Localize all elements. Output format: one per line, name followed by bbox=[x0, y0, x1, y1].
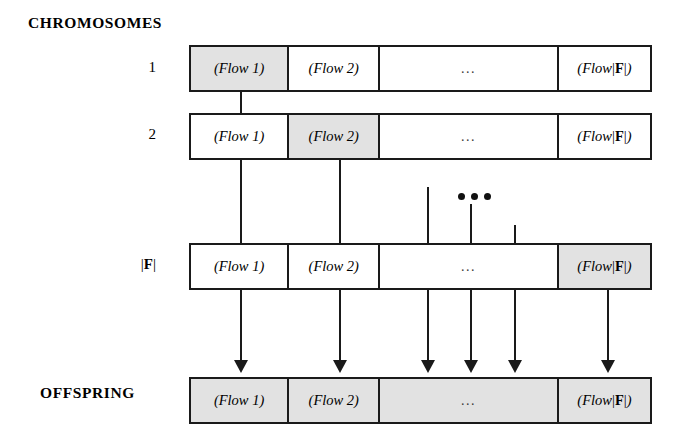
flowF-close: ) bbox=[627, 60, 632, 77]
chromosome-row-1: (Flow 1) (Flow 2) ... (Flow |F|) bbox=[189, 45, 652, 92]
offspring-heading: OFFSPRING bbox=[40, 384, 135, 402]
flowF-symbol: F bbox=[615, 128, 624, 145]
offspring-cell-ellipsis[interactable]: ... bbox=[380, 379, 558, 422]
arrow-shaft-2 bbox=[339, 290, 341, 362]
tick-mark-short bbox=[514, 225, 516, 245]
chromosomes-heading: CHROMOSOMES bbox=[28, 14, 162, 32]
offspring-cell-flowF[interactable]: (Flow |F|) bbox=[559, 379, 650, 422]
chromosome-F-cell-ellipsis[interactable]: ... bbox=[380, 245, 558, 288]
arrow-shaft-3 bbox=[427, 290, 429, 362]
row-label-f-bar-right: | bbox=[153, 256, 156, 272]
offspring-cell-flow1[interactable]: (Flow 1) bbox=[191, 379, 289, 422]
offspring-row: (Flow 1) (Flow 2) ... (Flow |F|) bbox=[189, 377, 652, 424]
row-label-f-symbol: F bbox=[144, 256, 153, 272]
flowF-open: (Flow bbox=[577, 392, 612, 409]
arrow-shaft-6 bbox=[607, 290, 609, 362]
flowF-open: (Flow bbox=[577, 258, 612, 275]
row-label-1: 1 bbox=[96, 59, 156, 76]
arrow-head-6 bbox=[601, 360, 615, 373]
chromosome-row-2: (Flow 1) (Flow 2) ... (Flow |F|) bbox=[189, 113, 652, 160]
connector-line-col1-row2-to-row3 bbox=[339, 159, 341, 245]
connector-line-row1-to-row2 bbox=[240, 92, 242, 115]
arrow-head-3 bbox=[421, 360, 435, 373]
arrow-shaft-5 bbox=[514, 290, 516, 362]
tick-mark-medium bbox=[470, 204, 472, 245]
chromosome-1-cell-flow2[interactable]: (Flow 2) bbox=[289, 47, 380, 90]
arrow-head-1 bbox=[234, 360, 248, 373]
arrow-head-2 bbox=[333, 360, 347, 373]
chromosome-2-cell-flow2[interactable]: (Flow 2) bbox=[289, 115, 380, 158]
ellipsis-dot-1 bbox=[458, 193, 465, 200]
flowF-close: ) bbox=[627, 258, 632, 275]
chromosome-1-cell-flow1[interactable]: (Flow 1) bbox=[191, 47, 289, 90]
flowF-symbol: F bbox=[615, 392, 624, 409]
flowF-open: (Flow bbox=[577, 60, 612, 77]
chromosome-F-cell-flow1[interactable]: (Flow 1) bbox=[191, 245, 289, 288]
chromosome-F-cell-flow2[interactable]: (Flow 2) bbox=[289, 245, 380, 288]
offspring-cell-flow2[interactable]: (Flow 2) bbox=[289, 379, 380, 422]
flowF-open: (Flow bbox=[577, 128, 612, 145]
ellipsis-dot-3 bbox=[484, 193, 491, 200]
arrow-shaft-1 bbox=[240, 290, 242, 362]
arrow-head-5 bbox=[508, 360, 522, 373]
connector-line-col0-row2-to-row3 bbox=[240, 159, 242, 245]
chromosome-2-cell-flow1[interactable]: (Flow 1) bbox=[191, 115, 289, 158]
chromosome-2-cell-flowF[interactable]: (Flow |F|) bbox=[559, 115, 650, 158]
tick-mark-tall bbox=[427, 187, 429, 245]
chromosome-1-cell-flowF[interactable]: (Flow |F|) bbox=[559, 47, 650, 90]
diagram-canvas: CHROMOSOMES OFFSPRING 1 2 |F| (Flow 1) (… bbox=[0, 0, 693, 437]
chromosome-2-cell-ellipsis[interactable]: ... bbox=[380, 115, 558, 158]
flowF-close: ) bbox=[627, 128, 632, 145]
chromosome-F-cell-flowF[interactable]: (Flow |F|) bbox=[559, 245, 650, 288]
row-label-f: |F| bbox=[96, 256, 156, 273]
chromosome-row-F: (Flow 1) (Flow 2) ... (Flow |F|) bbox=[189, 243, 652, 290]
ellipsis-dot-2 bbox=[471, 193, 478, 200]
flowF-symbol: F bbox=[615, 258, 624, 275]
chromosome-1-cell-ellipsis[interactable]: ... bbox=[380, 47, 558, 90]
row-label-2: 2 bbox=[96, 126, 156, 143]
arrow-head-4 bbox=[464, 360, 478, 373]
flowF-symbol: F bbox=[615, 60, 624, 77]
vertical-ellipsis-dots bbox=[458, 193, 491, 200]
arrow-shaft-4 bbox=[470, 290, 472, 362]
flowF-close: ) bbox=[627, 392, 632, 409]
